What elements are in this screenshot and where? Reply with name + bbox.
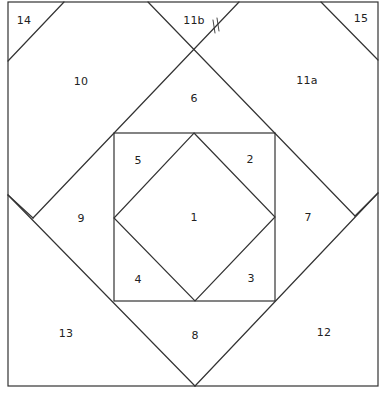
piece-label-9: 9 <box>77 212 84 225</box>
seam-line-11b-left <box>148 2 355 216</box>
piece-label-1: 1 <box>190 211 197 224</box>
piece-label-13: 13 <box>59 327 73 340</box>
piece-label-7: 7 <box>304 211 311 224</box>
piece-label-6: 6 <box>190 92 197 105</box>
piece-label-5: 5 <box>134 154 141 167</box>
piece-label-2: 2 <box>246 153 253 166</box>
piece-label-10: 10 <box>74 75 88 88</box>
piece-label-15: 15 <box>354 12 368 25</box>
seam-line-14 <box>8 2 64 61</box>
piece-label-3: 3 <box>247 272 254 285</box>
seam-line-11b-right <box>33 2 239 218</box>
piece-label-14: 14 <box>17 14 31 27</box>
piece-label-8: 8 <box>191 329 198 342</box>
piece-label-11a: 11a <box>296 74 317 87</box>
piece-label-12: 12 <box>317 326 331 339</box>
seam-line-12 <box>195 193 378 386</box>
seam-line-15 <box>321 2 378 60</box>
piece-label-11b: 11b <box>183 14 205 27</box>
seam-line-13 <box>8 195 195 386</box>
seam-mark-icon <box>213 20 215 33</box>
piece-label-4: 4 <box>134 273 141 286</box>
